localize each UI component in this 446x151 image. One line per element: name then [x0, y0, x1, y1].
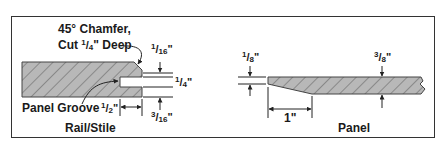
panel-profile [268, 77, 425, 94]
panel-caption: Panel [338, 121, 370, 135]
dim-edge-thickness: 1/8" [242, 50, 259, 64]
dim-groove-width: 1/4" [175, 75, 192, 89]
dim-bevel-length: 1" [284, 111, 296, 125]
panel-groove-label: Panel Groove [22, 101, 99, 115]
dim-groove-depth: 1/2" [101, 101, 118, 115]
dim-top-gap: 1/16" [151, 42, 173, 56]
dim-bottom-gap: 3/16" [151, 110, 173, 124]
rail-stile-caption: Rail/Stile [65, 121, 116, 135]
rail-stile-profile [22, 62, 142, 97]
dim-panel-thickness: 3/8" [374, 50, 391, 64]
chamfer-callout-line2: Cut 1/4" Deep [58, 38, 132, 52]
chamfer-callout-line1: 45° Chamfer, [58, 22, 131, 36]
